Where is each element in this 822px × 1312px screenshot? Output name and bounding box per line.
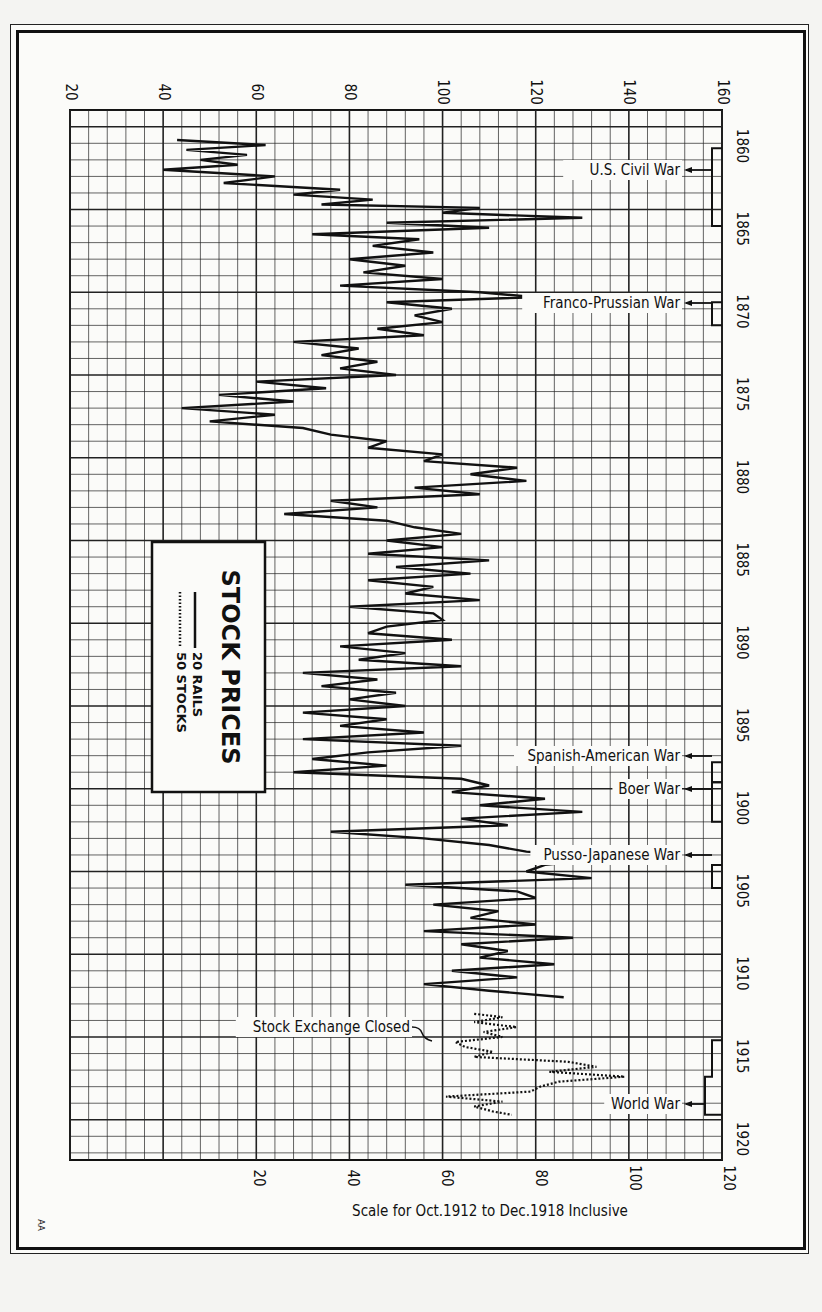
year-tick: 1890 [733, 625, 751, 659]
legend-label-stocks: 50 STOCKS [174, 652, 189, 733]
war-label-franco-prussian: Franco-Prussian War [543, 294, 680, 312]
top-scale-tick: 120 [527, 79, 545, 105]
top-scale-tick: 80 [341, 83, 359, 100]
top-scale-tick: 160 [714, 79, 732, 105]
year-tick: 1870 [733, 294, 751, 328]
year-tick: 1910 [733, 956, 751, 990]
year-tick: 1885 [733, 543, 751, 577]
top-scale-tick: 20 [62, 83, 80, 100]
bottom-scale-tick: 20 [250, 1169, 268, 1186]
war-label-spanish-american: Spanish-American War [527, 747, 680, 765]
top-scale-tick: 100 [434, 79, 452, 105]
bottom-scale-tick: 40 [344, 1169, 362, 1186]
year-tick: 1895 [733, 708, 751, 742]
bottom-scale-caption: Scale for Oct.1912 to Dec.1918 Inclusive [352, 1202, 628, 1220]
war-label-boer: Boer War [618, 780, 680, 798]
stock-price-chart: STOCK PRICES 20 RAILS 50 STOCKS 20406080… [0, 0, 822, 1312]
top-scale-tick: 40 [155, 83, 173, 100]
legend-label-rails: 20 RAILS [190, 652, 205, 717]
top-scale-tick: 60 [248, 83, 266, 100]
legend-box: STOCK PRICES 20 RAILS 50 STOCKS [152, 542, 265, 792]
year-tick: 1900 [733, 791, 751, 825]
year-tick: 1915 [733, 1039, 751, 1073]
war-label-world: World War [611, 1095, 681, 1113]
annotation-exchange-closed: Stock Exchange Closed [253, 1018, 410, 1036]
year-tick: 1905 [733, 874, 751, 908]
corner-mark: AA [36, 1219, 46, 1231]
war-label-civil: U.S. Civil War [590, 161, 681, 179]
war-label-russo-japanese: Pusso-Japanese War [544, 846, 681, 864]
year-tick: 1880 [733, 460, 751, 494]
year-tick: 1865 [733, 212, 751, 246]
top-scale-tick: 140 [620, 79, 638, 105]
year-tick: 1860 [733, 129, 751, 163]
year-tick: 1920 [733, 1122, 751, 1156]
bottom-scale-tick: 120 [720, 1165, 738, 1191]
year-tick: 1875 [733, 377, 751, 411]
bottom-scale-tick: 60 [438, 1169, 456, 1186]
bottom-scale-tick: 80 [532, 1169, 550, 1186]
bottom-scale-tick: 100 [626, 1165, 644, 1191]
legend-title: STOCK PRICES [216, 570, 244, 765]
